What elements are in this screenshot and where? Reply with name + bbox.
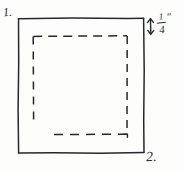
fraction-numerator: 1 xyxy=(158,12,163,22)
inch-unit-mark: ″ xyxy=(166,10,172,22)
solid-square-outline xyxy=(18,18,144,153)
sketch-page: 1. 1 4 ″ 2. xyxy=(0,0,184,172)
dimension-annotation: 1 4 ″ xyxy=(156,11,173,35)
dashed-inset-rectangle xyxy=(33,36,127,137)
figure-label-two: 2. xyxy=(146,150,157,165)
fraction-denominator: 4 xyxy=(159,23,166,35)
double-headed-vertical-arrow-icon xyxy=(148,19,154,35)
figure-label-one: 1. xyxy=(3,6,13,19)
